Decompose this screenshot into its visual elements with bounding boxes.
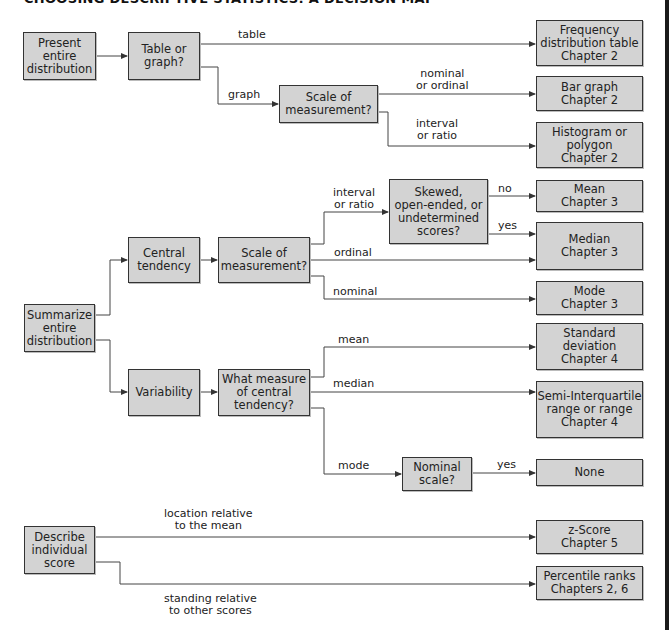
node-label: Semi-Interquartile range or range Chapte… — [537, 390, 641, 429]
node-central-tendency: Central tendency — [128, 237, 200, 283]
node-label: Central tendency — [137, 247, 191, 273]
node-label: Percentile ranks Chapters 2, 6 — [543, 570, 635, 596]
edge-label-no: no — [498, 183, 512, 195]
outcome-semi-interquartile: Semi-Interquartile range or range Chapte… — [536, 381, 643, 438]
edge-label-yes: yes — [498, 220, 517, 232]
outcome-z-score: z-Score Chapter 5 — [536, 520, 643, 554]
edge-label-table: table — [238, 29, 266, 41]
node-scale-of-measurement-2: Scale of measurement? — [218, 237, 310, 283]
outcome-standard-deviation: Standard deviation Chapter 4 — [536, 323, 643, 370]
node-label: Skewed, open-ended, or undetermined scor… — [395, 186, 483, 238]
edge-label-interval-ratio-2: interval or ratio — [333, 187, 375, 211]
node-label: Histogram or polygon Chapter 2 — [552, 126, 627, 165]
outcome-median: Median Chapter 3 — [536, 222, 643, 270]
node-label: Scale of measurement? — [285, 91, 371, 117]
node-label: z-Score Chapter 5 — [561, 524, 618, 550]
node-label: What measure of central tendency? — [222, 373, 306, 412]
node-label: Median Chapter 3 — [561, 233, 618, 259]
node-label: Mean Chapter 3 — [561, 183, 618, 209]
node-label: Nominal scale? — [413, 461, 461, 487]
outcome-mean: Mean Chapter 3 — [536, 180, 643, 212]
node-nominal-scale: Nominal scale? — [402, 457, 472, 491]
node-label: Frequency distribution table Chapter 2 — [540, 24, 638, 63]
edge-label-graph: graph — [228, 89, 260, 101]
edge-label-ordinal: ordinal — [334, 247, 372, 259]
node-present-distribution: Present entire distribution — [23, 32, 96, 80]
node-describe-score: Describe individual score — [24, 526, 95, 574]
node-label: Bar graph Chapter 2 — [561, 81, 618, 107]
edge-label-interval-ratio: interval or ratio — [416, 118, 458, 142]
node-label: Mode Chapter 3 — [561, 285, 618, 311]
outcome-none: None — [536, 459, 643, 486]
edge-label-yes-none: yes — [497, 459, 516, 471]
outcome-mode: Mode Chapter 3 — [536, 281, 643, 315]
edge-label-median: median — [333, 378, 374, 390]
node-variability: Variability — [128, 369, 200, 416]
edge-label-mode: mode — [338, 460, 369, 472]
node-label: Standard deviation Chapter 4 — [561, 327, 618, 366]
node-label: Present entire distribution — [27, 37, 93, 76]
node-summarize-distribution: Summarize entire distribution — [24, 304, 95, 352]
node-scale-of-measurement-1: Scale of measurement? — [279, 85, 378, 123]
edge-label-location: location relative to the mean — [164, 508, 253, 532]
edge-label-nominal-ordinal: nominal or ordinal — [416, 68, 469, 92]
edge-label-mean: mean — [338, 334, 369, 346]
outcome-histogram: Histogram or polygon Chapter 2 — [536, 122, 643, 168]
edge-label-standing: standing relative to other scores — [164, 593, 257, 617]
node-label: Scale of measurement? — [221, 247, 307, 273]
node-table-or-graph: Table or graph? — [128, 32, 200, 80]
node-skewed-scores: Skewed, open-ended, or undetermined scor… — [389, 179, 488, 244]
node-label: None — [574, 466, 604, 479]
node-label: Table or graph? — [141, 43, 186, 69]
outcome-bar-graph: Bar graph Chapter 2 — [536, 76, 643, 111]
outcome-frequency-table: Frequency distribution table Chapter 2 — [536, 20, 643, 66]
outcome-percentile-ranks: Percentile ranks Chapters 2, 6 — [536, 566, 643, 600]
node-label: Variability — [135, 386, 192, 399]
node-which-measure: What measure of central tendency? — [218, 369, 310, 416]
edge-label-nominal: nominal — [333, 286, 377, 298]
node-label: Describe individual score — [32, 531, 88, 570]
node-label: Summarize entire distribution — [27, 309, 93, 348]
